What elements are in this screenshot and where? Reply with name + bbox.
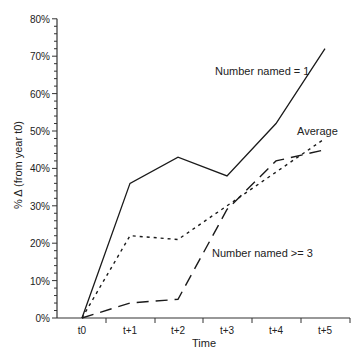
series-line-dotted: [82, 139, 325, 319]
x-tick-label: t0: [78, 325, 87, 336]
y-tick-label: 70%: [30, 51, 50, 62]
y-axis: 0%10%20%30%40%50%60%70%80%: [30, 14, 57, 324]
x-tick-label: t+1: [123, 325, 138, 336]
series-line-dashed: [82, 150, 325, 318]
line-chart: 0%10%20%30%40%50%60%70%80% t0t+1t+2t+3t+…: [0, 0, 363, 358]
series-annotation: Number named >= 3: [212, 247, 313, 259]
y-tick-label: 60%: [30, 89, 50, 100]
y-tick-label: 50%: [30, 126, 50, 137]
y-tick-label: 0%: [36, 313, 51, 324]
series-annotation: Number named = 1: [215, 65, 309, 77]
series-annotation: Average: [297, 125, 338, 137]
series-lines: [82, 49, 325, 318]
x-tick-label: t+5: [318, 325, 333, 336]
y-tick-label: 20%: [30, 238, 50, 249]
series-line-solid: [82, 49, 325, 318]
x-axis-label: Time: [192, 337, 216, 349]
y-tick-label: 30%: [30, 201, 50, 212]
y-tick-label: 80%: [30, 14, 50, 25]
x-axis: t0t+1t+2t+3t+4t+5: [57, 318, 350, 336]
x-tick-label: t+3: [220, 325, 235, 336]
x-tick-label: t+4: [269, 325, 284, 336]
y-axis-label: % Δ (from year t0): [12, 121, 24, 209]
x-tick-label: t+2: [171, 325, 186, 336]
y-tick-label: 40%: [30, 163, 50, 174]
y-tick-label: 10%: [30, 276, 50, 287]
